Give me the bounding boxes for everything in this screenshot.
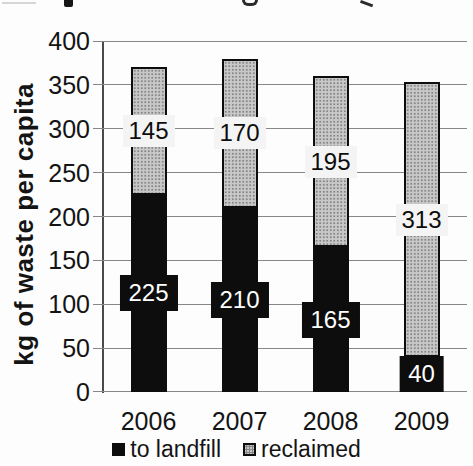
y-tick-label-100: 100 <box>0 289 90 319</box>
cropped-title-remnant <box>64 0 73 7</box>
cropped-title-remnant <box>360 0 373 7</box>
reclaimed-swatch-icon <box>243 443 256 456</box>
x-tick-label-2006: 2006 <box>121 407 177 436</box>
x-tick-label-2007: 2007 <box>212 407 268 436</box>
bar-2009-reclaimed-value: 313 <box>395 204 447 236</box>
y-tick-label-150: 150 <box>0 245 90 275</box>
y-tick-label-300: 300 <box>0 114 90 144</box>
plot-area: 22514521017016519540313 <box>103 41 467 392</box>
bar-2008-landfill-value: 165 <box>301 302 359 338</box>
x-tick-label-2008: 2008 <box>303 407 359 436</box>
legend-item-to-landfill: to landfill <box>112 436 221 463</box>
cropped-title-remnant <box>242 0 258 6</box>
y-tick-label-0: 0 <box>0 377 90 407</box>
bar-2007-landfill-value: 210 <box>210 282 268 318</box>
chart-root: kg of waste per capita 22514521017016519… <box>0 0 473 466</box>
bar-2006-reclaimed-value: 145 <box>122 115 174 147</box>
legend-item-reclaimed: reclaimed <box>243 436 361 463</box>
bar-2008-reclaimed-value: 195 <box>304 146 356 178</box>
y-tick-label-250: 250 <box>0 158 90 188</box>
legend-label: reclaimed <box>261 436 361 463</box>
landfill-swatch-icon <box>112 443 125 456</box>
legend-label: to landfill <box>130 436 221 463</box>
y-tick-label-50: 50 <box>0 333 90 363</box>
y-tick-label-400: 400 <box>0 26 90 56</box>
bar-2009-landfill-value: 40 <box>399 356 444 392</box>
gridline-400 <box>93 41 467 42</box>
bar-2006-landfill-value: 225 <box>119 275 177 311</box>
y-tick-label-350: 350 <box>0 70 90 100</box>
x-tick-label-2009: 2009 <box>394 407 450 436</box>
cropped-title-remnant <box>2 2 36 4</box>
legend: to landfillreclaimed <box>0 437 473 461</box>
bar-2007-reclaimed-value: 170 <box>213 117 265 149</box>
y-tick-label-200: 200 <box>0 202 90 232</box>
